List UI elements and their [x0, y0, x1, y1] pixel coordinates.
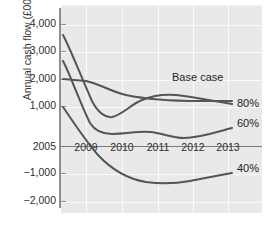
- series-label-60: 60%: [237, 117, 259, 129]
- series-curves: [0, 0, 274, 225]
- cash-flow-line-chart: Annual cash flow (£000) 4,0003,0002,0001…: [0, 0, 274, 225]
- series-label-base-case: Base case: [172, 71, 223, 83]
- series-label-40: 40%: [237, 162, 259, 174]
- series-label-80: 80%: [237, 97, 259, 109]
